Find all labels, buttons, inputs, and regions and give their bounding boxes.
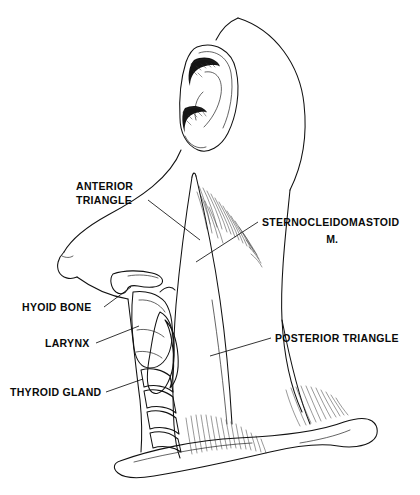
label-anterior-triangle-line2: TRIANGLE bbox=[76, 194, 132, 206]
label-sternocleidomastoid-line2: M. bbox=[326, 233, 338, 245]
label-sternocleidomastoid-line1: STERNOCLEIDOMASTOID bbox=[262, 216, 399, 228]
neck-anatomy-figure: ANTERIOR TRIANGLE STERNOCLEIDOMASTOID M.… bbox=[0, 0, 420, 495]
label-larynx: LARYNX bbox=[45, 337, 90, 349]
label-hyoid-bone: HYOID BONE bbox=[22, 301, 92, 313]
label-posterior-triangle: POSTERIOR TRIANGLE bbox=[275, 332, 399, 344]
label-thyroid-gland: THYROID GLAND bbox=[10, 386, 102, 398]
label-anterior-triangle-line1: ANTERIOR bbox=[76, 180, 133, 192]
